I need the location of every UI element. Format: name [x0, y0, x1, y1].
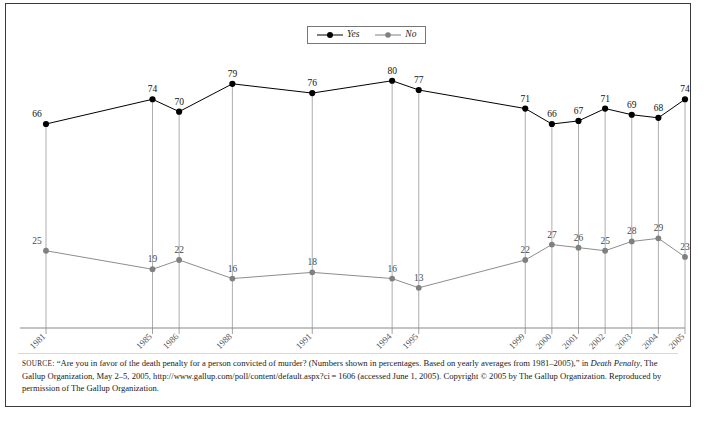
- legend-item-no: No: [375, 30, 416, 40]
- data-label: 16: [228, 264, 238, 274]
- data-label: 71: [600, 94, 610, 104]
- data-point: [682, 96, 688, 102]
- data-point: [575, 118, 581, 124]
- data-point: [229, 276, 235, 282]
- line-chart-plot: 1981198519861988199119941995199920002001…: [6, 4, 692, 354]
- data-point: [389, 78, 395, 84]
- data-label: 70: [174, 97, 184, 107]
- data-label: 66: [32, 109, 42, 119]
- data-point: [43, 248, 49, 254]
- note-separator: [18, 353, 678, 354]
- data-label: 66: [547, 109, 557, 119]
- data-point: [549, 242, 555, 248]
- x-axis-label: 1985: [134, 331, 154, 351]
- source-note-part1: : “Are you in favor of the death penalty…: [52, 358, 590, 368]
- data-label: 74: [680, 84, 690, 94]
- series-line-yes: [46, 81, 685, 124]
- x-axis-label: 2002: [587, 331, 607, 351]
- data-label: 29: [654, 223, 664, 233]
- data-point: [229, 81, 235, 87]
- data-label: 19: [148, 254, 158, 264]
- x-axis-label: 2000: [533, 331, 553, 351]
- source-note-italic-title: Death Penalty: [591, 358, 640, 368]
- data-point: [629, 112, 635, 118]
- x-axis-label: 1981: [28, 331, 48, 351]
- legend-swatch-yes-icon: [317, 30, 343, 40]
- x-axis-label: 1999: [507, 331, 527, 351]
- data-label: 69: [627, 100, 637, 110]
- data-label: 13: [414, 273, 424, 283]
- legend-item-yes: Yes: [317, 30, 359, 40]
- x-axis-label: 2005: [667, 331, 687, 351]
- data-label: 68: [654, 103, 664, 113]
- data-point: [416, 285, 422, 291]
- data-label: 23: [680, 242, 690, 252]
- data-point: [176, 257, 182, 263]
- legend-label-yes: Yes: [347, 30, 359, 40]
- x-axis-label: 1994: [374, 331, 394, 351]
- data-point: [43, 121, 49, 127]
- x-axis-label: 2001: [560, 331, 580, 351]
- x-axis-label: 2004: [640, 331, 660, 351]
- data-point: [655, 115, 661, 121]
- data-point: [576, 245, 582, 251]
- data-label: 22: [174, 245, 184, 255]
- legend-label-no: No: [405, 30, 416, 40]
- x-axis-label: 2003: [613, 331, 633, 351]
- data-point: [682, 254, 688, 260]
- x-axis-label: 1995: [400, 331, 420, 351]
- data-point: [602, 105, 608, 111]
- data-label: 25: [600, 236, 610, 246]
- data-label: 67: [574, 106, 584, 116]
- data-label: 28: [627, 226, 637, 236]
- data-point: [602, 248, 608, 254]
- data-point: [309, 269, 315, 275]
- data-label: 16: [387, 264, 397, 274]
- data-point: [655, 235, 661, 241]
- data-point: [150, 266, 156, 272]
- chart-canvas: 1981198519861988199119941995199920002001…: [6, 4, 692, 354]
- legend-swatch-no-icon: [375, 30, 401, 40]
- data-label: 27: [547, 230, 557, 240]
- x-axis-label: 1986: [161, 331, 181, 351]
- data-point: [522, 257, 528, 263]
- chart-legend: Yes No: [307, 26, 426, 44]
- data-label: 26: [574, 233, 584, 243]
- data-point: [309, 90, 315, 96]
- data-label: 76: [308, 78, 318, 88]
- data-label: 77: [414, 75, 424, 85]
- data-point: [416, 87, 422, 93]
- data-label: 25: [32, 236, 42, 246]
- data-point: [176, 109, 182, 115]
- data-point: [389, 276, 395, 282]
- data-point: [149, 96, 155, 102]
- data-point: [549, 121, 555, 127]
- data-label: 79: [228, 69, 238, 79]
- data-label: 71: [521, 94, 531, 104]
- data-label: 22: [521, 245, 531, 255]
- data-label: 18: [308, 257, 318, 267]
- data-point: [629, 239, 635, 245]
- data-point: [522, 105, 528, 111]
- data-label: 74: [148, 84, 158, 94]
- x-axis-label: 1988: [214, 331, 234, 351]
- data-label: 80: [387, 66, 397, 76]
- source-note: SOURCE: “Are you in favor of the death p…: [22, 357, 677, 395]
- x-axis-label: 1991: [294, 331, 314, 351]
- figure-frame: Yes No 198119851986198819911994199519992…: [5, 3, 691, 407]
- source-note-label: SOURCE: [22, 360, 52, 368]
- series-line-no: [46, 238, 685, 287]
